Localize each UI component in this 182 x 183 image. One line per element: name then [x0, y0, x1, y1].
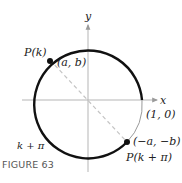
label-a-b: (a, b)	[57, 56, 86, 69]
y-axis-label: y	[84, 10, 92, 23]
label-p-k: P(k)	[23, 46, 47, 59]
x-axis-label: x	[160, 94, 167, 107]
label-neg-a-neg-b: (−a, −b)	[133, 135, 181, 148]
figure-caption: FIGURE 63	[2, 159, 54, 170]
label-p-k-plus-pi: P(k + π)	[125, 151, 172, 164]
arc-label-k-plus-pi: k + π	[17, 140, 45, 151]
point-p-k-plus-pi	[124, 139, 130, 145]
point-p-k	[47, 58, 53, 64]
label-1-0: (1, 0)	[146, 108, 176, 121]
unit-circle-diagram: y x P(k) (a, b) (1, 0) (−a, −b) P(k + π)…	[0, 0, 182, 183]
